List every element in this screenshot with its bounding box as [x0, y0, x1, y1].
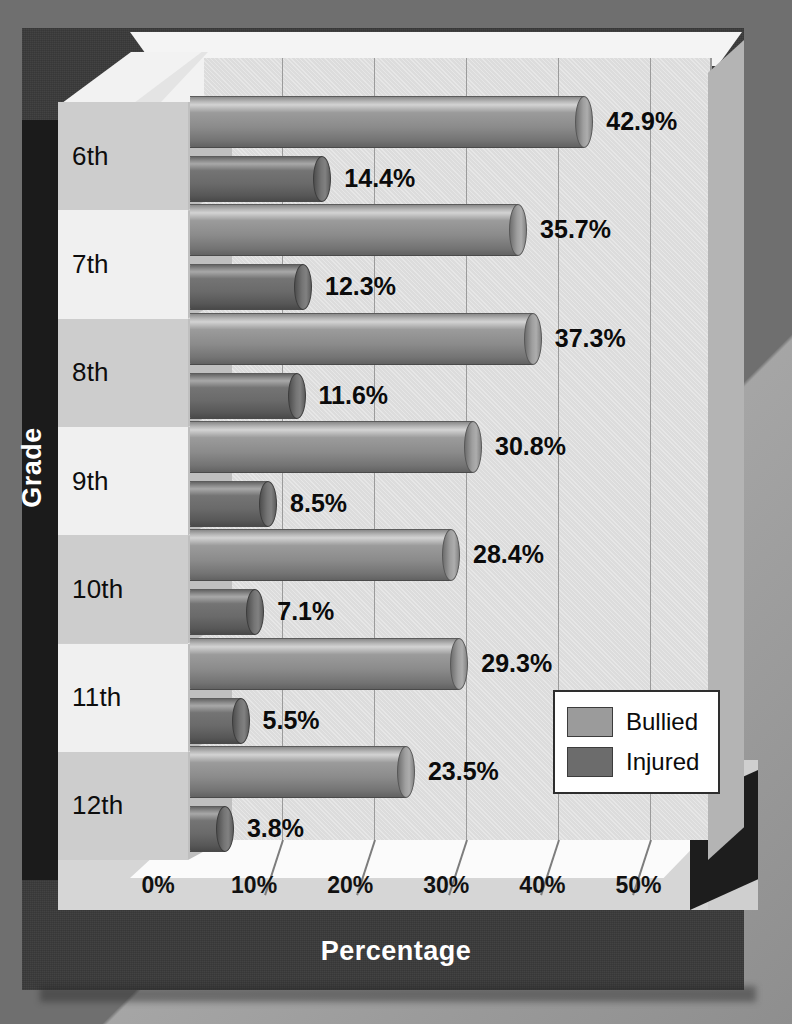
bar-end-cap	[397, 746, 415, 798]
bar-value-label: 23.5%	[428, 757, 499, 786]
bar-body	[190, 481, 268, 527]
bar-end-cap	[259, 481, 277, 527]
bar-injured-11th	[190, 698, 241, 744]
bar-value-label: 5.5%	[263, 706, 320, 735]
legend-label-bullied: Bullied	[626, 708, 698, 736]
bar-value-label: 30.8%	[495, 432, 566, 461]
bar-end-cap	[442, 529, 460, 581]
bar-bullied-6th	[190, 96, 584, 148]
x-axis-title: Percentage	[0, 936, 792, 967]
bar-value-label: 37.3%	[555, 324, 626, 353]
x-tick-label: 40%	[519, 872, 565, 899]
bar-injured-8th	[190, 373, 297, 419]
bar-bullied-7th	[190, 204, 518, 256]
category-label-9th: 9th	[58, 427, 188, 535]
bar-end-cap	[464, 421, 482, 473]
bar-value-label: 28.4%	[473, 540, 544, 569]
bar-body	[190, 746, 406, 798]
bar-value-label: 7.1%	[277, 597, 334, 626]
bar-injured-6th	[190, 156, 322, 202]
bar-end-cap	[232, 698, 250, 744]
bar-bullied-8th	[190, 313, 533, 365]
bar-body	[190, 96, 584, 148]
bar-value-label: 14.4%	[344, 164, 415, 193]
bar-body	[190, 313, 533, 365]
x-tick-label: 30%	[423, 872, 469, 899]
x-tick-label: 0%	[141, 872, 174, 899]
bar-bullied-11th	[190, 638, 459, 690]
x-tick-label: 20%	[327, 872, 373, 899]
x-tick-label: 50%	[615, 872, 661, 899]
bar-injured-9th	[190, 481, 268, 527]
bar-value-label: 35.7%	[540, 215, 611, 244]
bar-value-label: 12.3%	[325, 272, 396, 301]
bar-injured-12th	[190, 806, 225, 852]
bar-injured-7th	[190, 264, 303, 310]
bar-end-cap	[288, 373, 306, 419]
x-tick-label: 10%	[231, 872, 277, 899]
bar-value-label: 8.5%	[290, 489, 347, 518]
bar-bullied-9th	[190, 421, 473, 473]
bar-bullied-10th	[190, 529, 451, 581]
bar-value-label: 3.8%	[247, 814, 304, 843]
bar-body	[190, 264, 303, 310]
category-label-12th: 12th	[58, 752, 188, 860]
bar-body	[190, 421, 473, 473]
bar-bullied-12th	[190, 746, 406, 798]
legend-swatch-injured	[567, 747, 613, 777]
bar-end-cap	[524, 313, 542, 365]
legend-label-injured: Injured	[626, 748, 699, 776]
category-label-11th: 11th	[58, 644, 188, 752]
bar-end-cap	[216, 806, 234, 852]
bar-value-label: 11.6%	[319, 381, 389, 410]
chart-legend: Bullied Injured	[553, 690, 720, 794]
bar-injured-10th	[190, 589, 255, 635]
board-drop-shadow	[40, 986, 756, 1002]
y-axis-title: Grade	[17, 408, 48, 528]
category-label-10th: 10th	[58, 535, 188, 643]
bar-end-cap	[450, 638, 468, 690]
chart-root: 6th7th8th9th10th11th12th 42.9%14.4%35.7%…	[0, 0, 792, 1024]
bar-value-label: 42.9%	[606, 107, 677, 136]
bar-value-label: 29.3%	[481, 649, 552, 678]
bar-body	[190, 373, 297, 419]
legend-item-injured: Injured	[567, 742, 718, 782]
bar-body	[190, 529, 451, 581]
category-label-8th: 8th	[58, 319, 188, 427]
category-label-6th: 6th	[58, 102, 188, 210]
bar-body	[190, 638, 459, 690]
legend-swatch-bullied	[567, 707, 613, 737]
bar-body	[190, 204, 518, 256]
legend-item-bullied: Bullied	[567, 702, 718, 742]
bar-body	[190, 156, 322, 202]
category-label-7th: 7th	[58, 210, 188, 318]
